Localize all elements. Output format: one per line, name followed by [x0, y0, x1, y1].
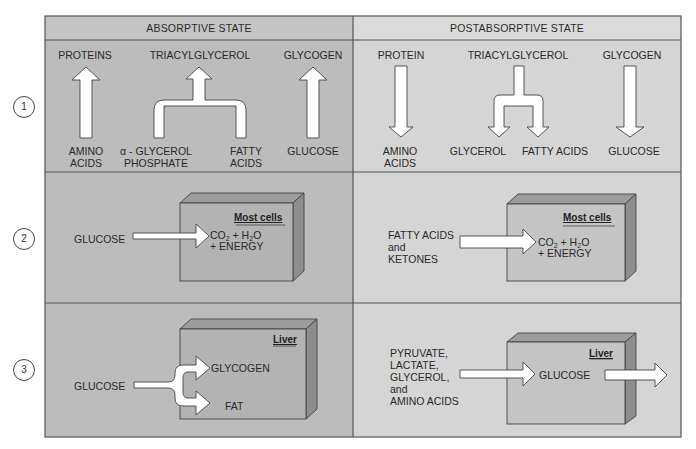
up-arrow-amino-to-protein: [72, 67, 100, 138]
input-line: and: [388, 241, 454, 253]
label-glucose-input: GLUCOSE: [74, 233, 125, 245]
label-glucose: GLUCOSE: [604, 145, 664, 157]
cell-box-top: [180, 193, 304, 203]
label-most-cells: Most cells: [234, 212, 282, 223]
label-energy: + ENERGY: [538, 247, 591, 259]
label-glycogen: GLYCOGEN: [278, 49, 348, 61]
label-fatty-acids-and-ketones: FATTY ACIDS and KETONES: [388, 229, 454, 265]
down-arrow-glycogen-to-glucose: [616, 66, 644, 137]
label-glycerol-line2: PHOSPHATE: [116, 157, 196, 169]
row-number-1: 1: [13, 96, 35, 118]
merge-arrow-to-triacylglycerol: [154, 67, 246, 138]
label-fatty-line1: FATTY: [218, 145, 274, 157]
postabsorptive-state-header: POSTABSORPTIVE STATE: [353, 22, 681, 34]
arrow-precursors-into-liver: [460, 362, 535, 386]
label-triacylglycerol: TRIACYLGLYCEROL: [463, 49, 573, 61]
arrow-fatty-acids-into-cell: [460, 229, 536, 254]
liver-box-side: [306, 319, 317, 419]
input-line: and: [390, 383, 459, 395]
input-line: FATTY ACIDS: [388, 229, 454, 241]
input-line: AMINO ACIDS: [390, 395, 459, 407]
label-glycerol-line1: α - GLYCEROL: [116, 145, 196, 157]
liver-box-top: [507, 333, 636, 342]
arrow-glucose-into-cell: [133, 224, 209, 248]
label-glycogen-output: GLYCOGEN: [211, 362, 270, 374]
label-glucose-input: GLUCOSE: [74, 380, 125, 392]
label-glucose-output: GLUCOSE: [539, 369, 590, 381]
row-number-2: 2: [13, 228, 35, 250]
label-glycogen: GLYCOGEN: [600, 49, 664, 61]
label-proteins: PROTEINS: [50, 49, 120, 61]
down-arrow-protein-to-amino: [389, 66, 413, 137]
liver-box-top: [180, 319, 317, 329]
input-line: LACTATE,: [390, 359, 459, 371]
label-energy: + ENERGY: [210, 240, 263, 252]
label-amino-acids-line1: AMINO: [372, 145, 428, 157]
absorptive-state-header: ABSORPTIVE STATE: [45, 22, 353, 34]
label-fatty-acids: FATTY ACIDS: [218, 145, 274, 169]
label-amino-acids-line2: ACIDS: [56, 157, 116, 169]
label-glycerol: GLYCEROL: [446, 145, 510, 157]
label-fatty-line2: ACIDS: [218, 157, 274, 169]
label-triacylglycerol: TRIACYLGLYCEROL: [145, 49, 255, 61]
label-fat-output: FAT: [225, 400, 243, 412]
label-alpha-glycerol-phosphate: α - GLYCEROL PHOSPHATE: [116, 145, 196, 169]
row-number-3: 3: [13, 359, 35, 381]
cell-box-side: [293, 193, 304, 281]
split-arrow-triacylglycerol: [488, 66, 549, 137]
up-arrow-glucose-to-glycogen: [299, 67, 327, 138]
cell-box-side: [625, 194, 636, 281]
label-amino-acids: AMINO ACIDS: [372, 145, 428, 169]
input-line: PYRUVATE,: [390, 347, 459, 359]
label-protein: PROTEIN: [370, 49, 432, 61]
label-most-cells: Most cells: [563, 212, 611, 223]
label-amino-acids: AMINO ACIDS: [56, 145, 116, 169]
input-line: KETONES: [388, 253, 454, 265]
label-fatty-acids: FATTY ACIDS: [515, 145, 595, 157]
label-amino-acids-line2: ACIDS: [372, 157, 428, 169]
label-liver: Liver: [589, 348, 613, 359]
input-line: GLYCEROL,: [390, 371, 459, 383]
cell-box-top: [507, 194, 636, 204]
label-glucose: GLUCOSE: [280, 145, 346, 157]
label-gluconeogenic-precursors: PYRUVATE, LACTATE, GLYCEROL, and AMINO A…: [390, 347, 459, 407]
label-liver: Liver: [273, 334, 297, 345]
label-amino-acids-line1: AMINO: [56, 145, 116, 157]
